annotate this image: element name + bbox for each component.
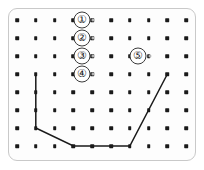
grid-dot	[34, 54, 38, 58]
grid-dot	[53, 36, 57, 40]
marker-5: ⑤	[130, 48, 147, 65]
grid-dot	[15, 144, 19, 148]
grid-dot	[90, 90, 94, 94]
grid-dot	[166, 126, 170, 130]
grid-dot	[34, 18, 38, 22]
grid-dot	[72, 126, 76, 130]
grid-dot	[90, 126, 94, 130]
grid-dot	[72, 144, 76, 148]
grid-dot	[147, 126, 151, 130]
grid-dot	[147, 90, 151, 94]
grid-dot	[90, 108, 94, 112]
grid-dot	[147, 18, 151, 22]
grid-dot	[166, 18, 170, 22]
grid-dot	[34, 36, 38, 40]
grid-dot	[128, 144, 132, 148]
grid-dot	[34, 72, 38, 76]
marker-3: ③	[73, 48, 90, 65]
grid-dot	[109, 36, 113, 40]
grid-dot	[109, 18, 113, 22]
grid-dot	[184, 18, 188, 22]
grid-dot	[53, 126, 57, 130]
grid-dot	[34, 126, 38, 130]
grid-dot	[184, 90, 188, 94]
figure-canvas: ①②③④⑤	[0, 0, 204, 170]
polyline-layer	[0, 0, 204, 170]
grid-dot	[90, 144, 94, 148]
grid-dot	[72, 90, 76, 94]
grid-dot	[166, 90, 170, 94]
grid-dot	[166, 108, 170, 112]
grid-dot	[15, 126, 19, 130]
grid-dot	[109, 90, 113, 94]
grid-dot	[109, 144, 113, 148]
grid-dot	[53, 72, 57, 76]
grid-dot	[166, 36, 170, 40]
grid-dot	[72, 108, 76, 112]
grid-dot	[147, 108, 151, 112]
grid-dot	[147, 144, 151, 148]
grid-dot	[128, 90, 132, 94]
grid-dot	[53, 108, 57, 112]
grid-dot	[53, 18, 57, 22]
grid-dot	[184, 144, 188, 148]
grid-dot	[109, 126, 113, 130]
grid-dot	[53, 54, 57, 58]
marker-1: ①	[73, 12, 90, 29]
grid-dot	[147, 72, 151, 76]
grid-dot	[109, 72, 113, 76]
grid-dot	[184, 54, 188, 58]
grid-dot	[184, 108, 188, 112]
grid-dot	[184, 36, 188, 40]
grid-dot	[53, 90, 57, 94]
grid-dot	[166, 72, 170, 76]
grid-dot	[109, 54, 113, 58]
grid-dot	[184, 72, 188, 76]
grid-dot	[184, 126, 188, 130]
grid-dot	[128, 72, 132, 76]
grid-dot	[128, 18, 132, 22]
grid-dot	[34, 108, 38, 112]
grid-dot	[166, 54, 170, 58]
grid-dot	[128, 126, 132, 130]
grid-dot	[15, 18, 19, 22]
marker-4: ④	[73, 66, 90, 83]
grid-dot	[34, 90, 38, 94]
grid-dot	[34, 144, 38, 148]
grid-dot	[15, 54, 19, 58]
grid-dot	[15, 36, 19, 40]
grid-dot	[15, 90, 19, 94]
grid-dot	[128, 36, 132, 40]
grid-dot	[15, 72, 19, 76]
grid-dot	[128, 108, 132, 112]
marker-2: ②	[73, 30, 90, 47]
grid-dot	[109, 108, 113, 112]
grid-dot	[15, 108, 19, 112]
grid-dot	[53, 144, 57, 148]
grid-dot	[147, 36, 151, 40]
grid-dot	[166, 144, 170, 148]
